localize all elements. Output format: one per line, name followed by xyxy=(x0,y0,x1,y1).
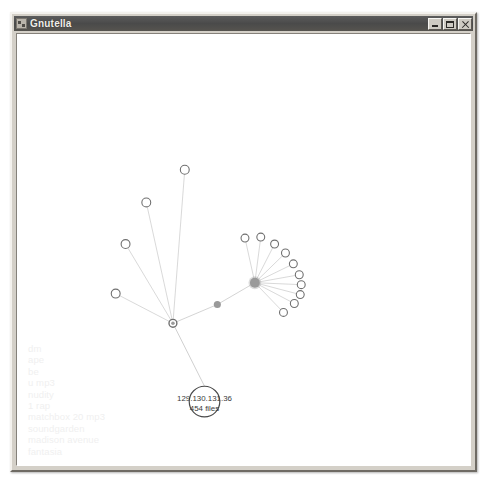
peer-r5[interactable] xyxy=(289,260,297,268)
bridge-node[interactable] xyxy=(214,301,221,308)
graph-edge xyxy=(146,202,173,323)
network-graph-canvas[interactable]: 129.130.131.36454 files dmapebeu mp3nudi… xyxy=(16,33,471,466)
graph-edge xyxy=(245,238,255,283)
hub-right[interactable] xyxy=(250,278,260,288)
close-icon[interactable] xyxy=(458,18,472,30)
peer-r4[interactable] xyxy=(281,249,289,257)
selected-peer-address: 129.130.131.36 xyxy=(177,394,232,403)
graph-edge xyxy=(255,264,293,283)
maximize-icon[interactable] xyxy=(443,18,457,30)
peer-r7[interactable] xyxy=(297,281,305,289)
network-graph: 129.130.131.36454 files xyxy=(17,34,470,465)
peer-r2[interactable] xyxy=(257,233,265,241)
peer-l4[interactable] xyxy=(111,289,120,298)
peer-r9[interactable] xyxy=(290,300,298,308)
peer-r3[interactable] xyxy=(271,240,279,248)
graph-edge-backbone xyxy=(173,304,217,323)
peer-r6[interactable] xyxy=(295,271,303,279)
graph-edge xyxy=(255,283,294,304)
minimize-icon[interactable] xyxy=(428,18,442,30)
peer-r8[interactable] xyxy=(296,291,304,299)
graph-edge-selected xyxy=(173,323,205,386)
graph-edge-backbone xyxy=(217,283,255,305)
gnutella-app-icon xyxy=(16,18,27,29)
window-title: Gnutella xyxy=(30,17,427,30)
peer-l2[interactable] xyxy=(142,198,151,207)
hub-left-core[interactable] xyxy=(171,322,175,326)
selected-peer-filecount: 454 files xyxy=(190,403,219,412)
peer-l3[interactable] xyxy=(121,240,130,249)
peer-r1[interactable] xyxy=(241,234,249,242)
title-bar[interactable]: Gnutella xyxy=(14,16,473,31)
graph-edge xyxy=(255,244,275,283)
graph-nodes-layer xyxy=(111,165,305,417)
peer-l1[interactable] xyxy=(180,165,189,174)
graph-edge xyxy=(173,170,185,324)
graph-labels-layer: 129.130.131.36454 files xyxy=(177,394,232,413)
peer-r10[interactable] xyxy=(280,308,288,316)
gnutella-window: Gnutella 129.130.131.36454 files dmapebe… xyxy=(10,12,477,472)
graph-edge xyxy=(255,237,261,283)
